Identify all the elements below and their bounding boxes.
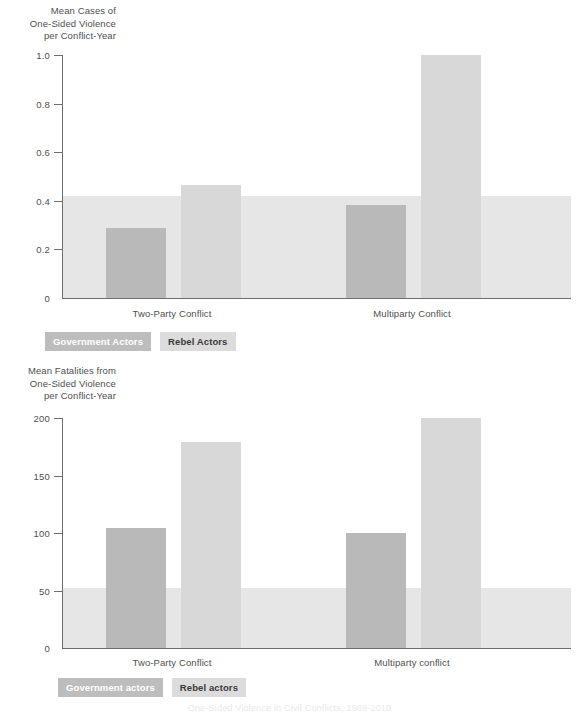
cases-legend: Government Actors Rebel Actors — [45, 332, 236, 351]
chart-panel-fatalities: Mean Fatalities from One-Sided Violence … — [0, 365, 579, 711]
fatalities-category-label-two-party: Two-Party Conflict — [133, 657, 212, 668]
cases-ytick-label-0: 0 — [10, 293, 50, 304]
cases-plot-area: 1.0 0.8 0.6 0.4 0.2 0 — [62, 55, 571, 299]
fatalities-axis-title: Mean Fatalities from One-Sided Violence … — [0, 365, 116, 403]
cases-plot-inner — [63, 55, 571, 298]
fatalities-tick-200 — [54, 418, 63, 419]
legend-item-government-actors-lower[interactable]: Government actors — [58, 678, 163, 697]
cases-category-label-multiparty: Multiparty Conflict — [373, 308, 450, 319]
cases-axis-title: Mean Cases of One-Sided Violence per Con… — [6, 5, 116, 43]
cases-ytick-label-1.0: 1.0 — [10, 50, 50, 61]
figure-caption: One-Sided Violence in Civil Conflicts, 1… — [0, 703, 579, 713]
legend-item-rebel-actors[interactable]: Rebel Actors — [160, 332, 235, 351]
cases-tick-2 — [54, 104, 63, 105]
fatalities-ytick-label-50: 50 — [10, 585, 50, 596]
fatalities-ytick-label-100: 100 — [10, 528, 50, 539]
cases-category-label-two-party: Two-Party Conflict — [133, 308, 212, 319]
cases-tick-1 — [54, 55, 63, 56]
fatalities-ytick-label-0: 0 — [10, 643, 50, 654]
cases-ytick-label-0.2: 0.2 — [10, 244, 50, 255]
cases-ytick-label-0.6: 0.6 — [10, 147, 50, 158]
bar-fatalities-rebel-multiparty — [421, 418, 481, 648]
cases-ytick-label-0.4: 0.4 — [10, 195, 50, 206]
fatalities-ytick-label-200: 200 — [10, 413, 50, 424]
fatalities-tick-100 — [54, 533, 63, 534]
bar-fatalities-government-two-party — [106, 528, 166, 648]
fatalities-category-label-multiparty: Multiparty conflict — [374, 657, 449, 668]
fatalities-legend: Government actors Rebel actors — [58, 678, 246, 697]
fatalities-ytick-label-150: 150 — [10, 470, 50, 481]
fatalities-tick-50 — [54, 591, 63, 592]
legend-item-government-actors[interactable]: Government Actors — [45, 332, 151, 351]
cases-tick-5 — [54, 249, 63, 250]
bar-cases-rebel-two-party — [181, 185, 241, 298]
fatalities-plot-area: 200 150 100 50 0 — [62, 418, 571, 649]
chart-panel-cases: Mean Cases of One-Sided Violence per Con… — [0, 0, 579, 360]
cases-tick-4 — [54, 201, 63, 202]
fatalities-tick-150 — [54, 476, 63, 477]
bar-fatalities-rebel-two-party — [181, 442, 241, 648]
legend-item-rebel-actors-lower[interactable]: Rebel actors — [172, 678, 246, 697]
cases-ytick-label-0.8: 0.8 — [10, 98, 50, 109]
bar-cases-rebel-multiparty — [421, 55, 481, 298]
fatalities-plot-inner — [63, 418, 571, 648]
bar-fatalities-government-multiparty — [346, 533, 406, 648]
bar-cases-government-two-party — [106, 228, 166, 298]
bar-cases-government-multiparty — [346, 205, 406, 298]
cases-tick-3 — [54, 152, 63, 153]
